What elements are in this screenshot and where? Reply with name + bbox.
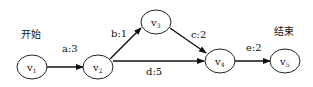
node-v3: v3 (141, 10, 171, 34)
node-v5: v5 (270, 49, 300, 73)
node-v2: v2 (83, 55, 113, 79)
edge-label-c: c:2 (191, 29, 206, 40)
activity-network-diagram: v1 v2 v3 v4 v5 a:3 b:1 c:2 d:5 e:2 开始 结束 (0, 0, 313, 87)
node-v4: v4 (205, 49, 235, 73)
edge-label-d: d:5 (146, 66, 162, 77)
edge-label-b: b:1 (111, 28, 127, 39)
end-label: 结束 (274, 25, 294, 37)
node-v1: v1 (17, 55, 47, 79)
edge-label-a: a:3 (62, 43, 78, 54)
start-label: 开始 (21, 28, 41, 40)
edge-label-e: e:2 (246, 42, 262, 53)
